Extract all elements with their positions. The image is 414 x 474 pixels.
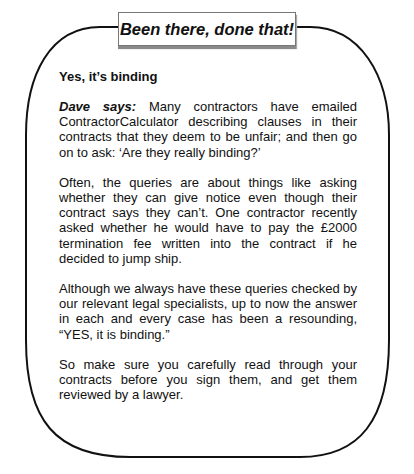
paragraph-legal: Although we always have these queries ch… [59, 281, 357, 342]
paragraph-advice: So make sure you carefully read through … [59, 357, 357, 403]
paragraph-intro: Dave says: Many contractors have emailed… [59, 99, 357, 160]
title-text: Been there, done that! [120, 20, 294, 39]
paragraph-queries: Often, the queries are about things like… [59, 175, 357, 266]
title-banner: Been there, done that! [118, 12, 296, 46]
author-label: Dave says: [59, 99, 136, 114]
section-heading: Yes, it’s binding [59, 69, 357, 85]
content-area: Yes, it’s binding Dave says: Many contra… [59, 69, 357, 417]
